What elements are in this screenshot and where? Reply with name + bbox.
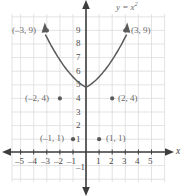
x-tick-label-neg5: –5	[15, 157, 24, 166]
point-marker-neg1-1	[71, 137, 75, 141]
point-marker-neg2-4	[58, 96, 62, 100]
equation-exponent: 2	[135, 0, 138, 7]
x-tick-label-2: 2	[109, 157, 114, 166]
point-marker-2-4	[110, 96, 114, 100]
y-tick-label-2: 2	[76, 121, 81, 130]
x-tick-label-5: 5	[148, 157, 153, 166]
x-tick-label-4: 4	[135, 157, 140, 166]
y-tick-label-3: 3	[76, 108, 81, 117]
point-label-3-9: (3, 9)	[131, 26, 151, 35]
x-tick-label-neg4: –4	[28, 157, 37, 166]
equation-text: y = x	[116, 2, 135, 12]
x-axis-arrow-right	[165, 148, 174, 156]
point-label-neg2-4: (–2, 4)	[25, 94, 49, 103]
y-axis-arrow-down	[82, 187, 90, 196]
x-tick-label-neg1: –1	[67, 157, 76, 166]
point-label-1-1: (1, 1)	[106, 134, 126, 143]
point-label-neg3-9: (–3, 9)	[12, 26, 36, 35]
x-tick-label-3: 3	[122, 157, 127, 166]
point-marker-3-9	[123, 28, 127, 32]
y-tick-label-5: 5	[76, 80, 81, 89]
equation-label: y = x2	[116, 3, 138, 12]
y-axis-arrow-up	[82, 0, 90, 9]
graph-figure: y = x2 x (–3, 9) (3, 9) (–2, 4) (2, 4) (…	[0, 0, 185, 196]
x-axis-label: x	[176, 147, 180, 157]
y-tick-label-6: 6	[76, 67, 81, 76]
x-axis-arrow-left	[2, 148, 11, 156]
point-label-neg1-1: (–1, 1)	[40, 134, 64, 143]
x-tick-label-1: 1	[96, 157, 101, 166]
point-marker-1-1	[97, 137, 101, 141]
point-label-2-4: (2, 4)	[118, 94, 138, 103]
x-tick-label-neg3: –3	[41, 157, 50, 166]
y-tick-label-8: 8	[76, 39, 81, 48]
x-tick-label-neg2: –2	[54, 157, 63, 166]
point-marker-neg3-9	[45, 28, 49, 32]
y-tick-label-7: 7	[76, 53, 81, 62]
y-tick-label-neg1: –1	[76, 163, 85, 172]
y-tick-label-1: 1	[76, 135, 81, 144]
y-tick-label-9: 9	[76, 26, 81, 35]
y-tick-label-4: 4	[76, 94, 81, 103]
